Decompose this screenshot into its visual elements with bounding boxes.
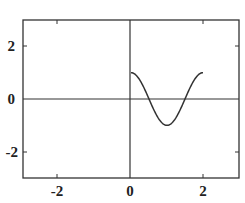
x-tick-label: 2 [199,183,207,199]
plot-canvas: -2 0 2 2 0 -2 [0,0,245,203]
x-tick-label: 0 [126,183,134,199]
y-tick-label: 2 [8,38,16,54]
x-tick-label: -2 [51,183,64,199]
y-tick-label: 0 [8,91,16,107]
y-tick-label: -2 [6,144,19,160]
